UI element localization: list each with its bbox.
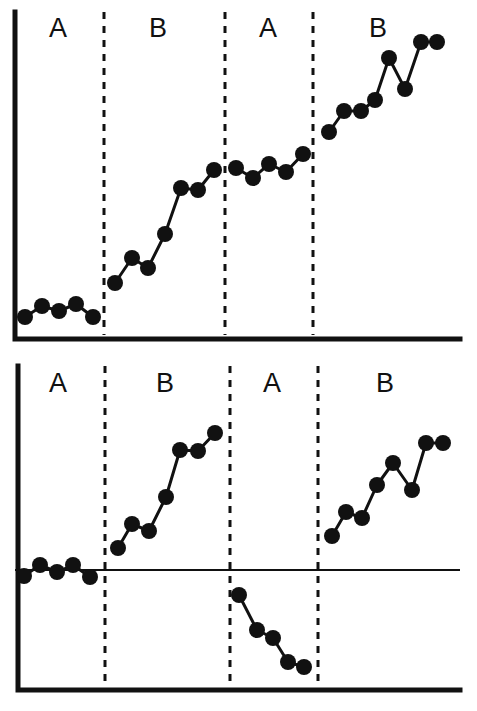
data-point-a2-4: [278, 164, 294, 180]
data-point-a1-3: [51, 303, 67, 319]
phase-label-1: A: [49, 368, 67, 398]
data-point-a1-2: [32, 557, 48, 573]
data-point-b2-8: [429, 34, 445, 50]
data-point-b1-6: [190, 182, 206, 198]
figure-root: ABAB ABAB: [0, 0, 477, 711]
data-point-a2-4: [280, 654, 296, 670]
series-line-b2: [332, 443, 443, 536]
data-point-b1-4: [158, 489, 174, 505]
data-point-a1-3: [49, 564, 65, 580]
data-point-b1-2: [124, 250, 140, 266]
data-point-b2-4: [367, 92, 383, 108]
data-point-a1-1: [17, 309, 33, 325]
data-point-b1-7: [206, 162, 222, 178]
data-point-b2-8: [435, 435, 451, 451]
upper-graph-panel: ABAB: [0, 0, 477, 355]
phase-label-4: B: [369, 13, 387, 43]
data-point-b2-6: [397, 81, 413, 97]
data-point-b2-5: [381, 50, 397, 66]
data-point-b2-2: [336, 103, 352, 119]
data-point-a2-3: [265, 630, 281, 646]
data-point-b1-3: [141, 523, 157, 539]
data-point-b1-1: [110, 540, 126, 556]
phase-label-3: A: [259, 13, 277, 43]
data-point-b2-7: [413, 34, 429, 50]
data-point-a2-1: [231, 587, 247, 603]
data-point-b2-3: [353, 103, 369, 119]
phase-label-2: B: [156, 368, 174, 398]
data-point-b2-6: [404, 482, 420, 498]
data-point-b1-5: [173, 180, 189, 196]
data-point-a2-2: [249, 622, 265, 638]
lower-graph-panel: ABAB: [0, 355, 477, 711]
chart-axes: [18, 366, 460, 690]
data-point-a2-2: [245, 170, 261, 186]
data-point-b2-2: [338, 504, 354, 520]
data-point-b2-5: [385, 455, 401, 471]
data-point-b2-1: [324, 528, 340, 544]
data-point-b1-5: [172, 442, 188, 458]
data-point-a1-4: [68, 296, 84, 312]
data-point-b2-7: [418, 435, 434, 451]
data-point-b1-3: [140, 260, 156, 276]
data-point-b2-3: [354, 510, 370, 526]
data-point-a1-5: [82, 569, 98, 585]
data-point-a2-1: [228, 160, 244, 176]
phase-label-2: B: [149, 13, 167, 43]
lower-graph-svg: ABAB: [0, 355, 477, 711]
data-point-a1-5: [85, 309, 101, 325]
data-point-b1-7: [207, 425, 223, 441]
data-point-a1-2: [34, 298, 50, 314]
data-point-b2-1: [321, 124, 337, 140]
data-point-a1-1: [16, 568, 32, 584]
data-point-b1-6: [190, 443, 206, 459]
data-point-a2-5: [296, 659, 312, 675]
data-point-a2-3: [261, 156, 277, 172]
phase-label-1: A: [49, 13, 67, 43]
phase-label-3: A: [263, 368, 281, 398]
data-point-b2-4: [369, 477, 385, 493]
data-point-a2-5: [295, 146, 311, 162]
data-point-a1-4: [65, 557, 81, 573]
upper-graph-svg: ABAB: [0, 0, 477, 355]
data-point-b1-1: [107, 275, 123, 291]
data-point-b1-4: [157, 226, 173, 242]
data-point-b1-2: [124, 516, 140, 532]
phase-label-4: B: [376, 368, 394, 398]
